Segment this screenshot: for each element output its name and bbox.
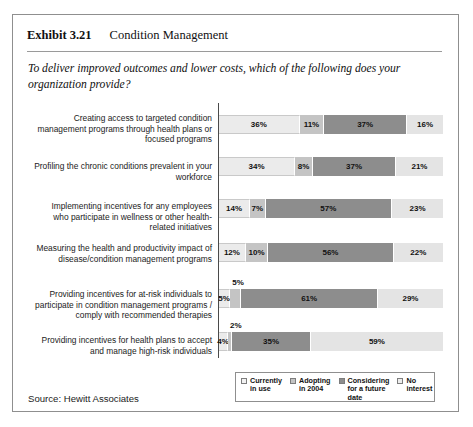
legend-swatch-icon-adopting-2004 (290, 378, 296, 384)
legend-swatch-icon-currently-in-use (241, 378, 247, 384)
chart-row-label: Creating access to targeted condition ma… (34, 113, 212, 145)
chart-bar: 12%10%56%22% (219, 243, 443, 262)
bar-segment-adopting-2004: 8% (295, 157, 313, 176)
legend-item-currently-in-use[interactable]: Currently in use (241, 377, 282, 394)
legend-swatch-icon-no-interest (397, 378, 403, 384)
legend-label-considering: Considering for a future date (348, 377, 390, 402)
chart-bar: 34%8%37%21% (219, 157, 443, 176)
bar-segment-currently-in-use: 34% (219, 157, 295, 176)
exhibit-title: Condition Management (110, 28, 228, 42)
bar-segment-currently-in-use: 12% (219, 243, 246, 262)
bar-segment-adopting-2004: 11% (300, 115, 325, 134)
chart-row-label: Providing incentives for health plans to… (34, 335, 212, 356)
bar-segment-no-interest: 16% (407, 115, 443, 134)
bar-segment-no-interest: 23% (392, 199, 443, 218)
legend-label-adopting-2004: Adopting in 2004 (299, 377, 331, 394)
bar-segment-adopting-2004 (230, 289, 241, 308)
bar-segment-considering: 37% (324, 115, 407, 134)
bar-segment-considering: 35% (232, 332, 310, 351)
value-axis-line (218, 103, 219, 358)
exhibit-number: Exhibit 3.21 (27, 28, 92, 42)
chart-bar: 36%11%37%16% (219, 115, 443, 134)
bar-segment-currently-in-use: 14% (219, 199, 250, 218)
chart-bar: 4%35%59% (219, 332, 443, 351)
legend-item-no-interest[interactable]: No interest (397, 377, 432, 394)
chart-row-label: Implementing incentives for any employee… (34, 201, 212, 233)
chart-row-label: Providing incentives for at-risk individ… (34, 289, 212, 321)
bar-segment-no-interest: 29% (378, 289, 443, 308)
bar-segment-considering: 56% (268, 243, 393, 262)
bar-segment-currently-in-use: 4% (219, 332, 228, 351)
bar-segment-no-interest: 21% (396, 157, 443, 176)
bar-segment-considering: 57% (266, 199, 392, 218)
bar-segment-no-interest: 59% (311, 332, 443, 351)
exhibit-frame: Exhibit 3.21 Condition Management To del… (12, 14, 459, 412)
chart-legend: Currently in useAdopting in 2004Consider… (235, 372, 435, 402)
legend-label-no-interest: No interest (406, 377, 432, 394)
bar-segment-adopting-2004: 7% (250, 199, 266, 218)
bar-segment-currently-in-use: 36% (219, 115, 300, 134)
stacked-bar-chart: Creating access to targeted condition ma… (28, 103, 444, 358)
legend-item-considering[interactable]: Considering for a future date (339, 377, 390, 402)
chart-bar: 5%61%29% (219, 289, 443, 308)
bar-segment-currently-in-use: 5% (219, 289, 230, 308)
chart-row-label: Profiling the chronic conditions prevale… (34, 161, 212, 182)
exhibit-header: Exhibit 3.21 Condition Management (27, 25, 442, 51)
source-note: Source: Hewitt Associates (28, 393, 139, 404)
legend-label-currently-in-use: Currently in use (250, 377, 282, 394)
bar-segment-callout-adopting-2004: 2% (230, 321, 242, 330)
bar-segment-no-interest: 22% (394, 243, 443, 262)
bar-segment-considering: 61% (241, 289, 378, 308)
legend-swatch-icon-considering (339, 378, 345, 384)
header-divider (27, 51, 442, 52)
bar-segment-adopting-2004: 10% (246, 243, 268, 262)
chart-bar: 14%7%57%23% (219, 199, 443, 218)
bar-segment-callout-adopting-2004: 5% (232, 278, 244, 287)
chart-question: To deliver improved outcomes and lower c… (28, 61, 440, 93)
chart-row-label: Measuring the health and productivity im… (34, 243, 212, 264)
bar-segment-considering: 37% (313, 157, 396, 176)
legend-item-adopting-2004[interactable]: Adopting in 2004 (290, 377, 331, 394)
